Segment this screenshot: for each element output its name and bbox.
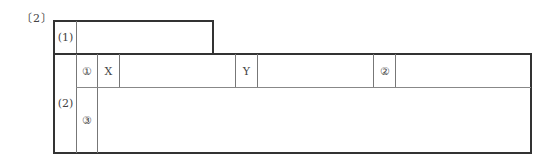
item2-label: ② xyxy=(374,55,395,87)
section-number: 〔2〕 xyxy=(21,9,53,25)
y-label: Y xyxy=(236,55,257,87)
part1-answer-field[interactable] xyxy=(77,22,212,53)
item2-answer-field[interactable] xyxy=(396,55,530,87)
row1-sub-label: ① xyxy=(77,55,97,87)
x-answer-field[interactable] xyxy=(120,55,235,87)
part2-label: (2) xyxy=(55,55,76,152)
x-label: X xyxy=(98,55,119,87)
row2-sub-label: ③ xyxy=(77,88,97,152)
y-answer-field[interactable] xyxy=(258,55,373,87)
item3-answer-field[interactable] xyxy=(98,88,530,152)
part1-label: (1) xyxy=(55,22,76,53)
